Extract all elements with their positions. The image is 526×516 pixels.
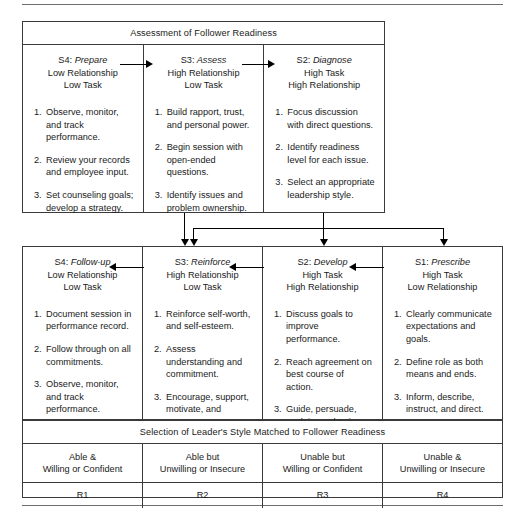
readiness-descriptor-r1: Able & Willing or Confident xyxy=(23,444,142,482)
arrow-s3-to-s4-line xyxy=(116,267,144,268)
list-item: 2.Reach agreement on best course of acti… xyxy=(274,356,373,394)
selection-s4-code: S4: xyxy=(54,257,68,267)
item-number: 2. xyxy=(275,141,283,154)
assessment-s3-items: 1.Build rapport, trust, and personal pow… xyxy=(144,92,264,214)
assessment-s4-items: 1.Observe, monitor, and track performanc… xyxy=(23,92,143,214)
list-item: 2.Identify readiness level for each issu… xyxy=(275,141,375,166)
assessment-s4-line3: Low Task xyxy=(27,79,139,92)
connector-s2-down-line xyxy=(323,213,324,241)
readiness-level-row: R1 R2 R3 R4 xyxy=(23,483,502,508)
list-item: 1.Focus discussion with direct questions… xyxy=(275,106,375,131)
arrow-s3-to-s2-head xyxy=(268,60,275,68)
assessment-s4-name: Prepare xyxy=(75,55,108,65)
item-text: Define role as both means and ends. xyxy=(406,357,483,380)
item-number: 2. xyxy=(274,356,282,369)
item-number: 1. xyxy=(34,308,42,321)
item-text: Reach agreement on best course of action… xyxy=(286,357,372,392)
connector-bus-right-head xyxy=(440,239,448,246)
selection-s1-items: 1.Clearly communicate expectations and g… xyxy=(383,294,502,416)
item-number: 3. xyxy=(155,189,163,202)
item-text: Begin session with open-ended questions. xyxy=(167,142,243,177)
readiness-descriptor-r2: Able but Unwilling or Insecure xyxy=(142,444,262,482)
item-text: Discuss goals to improve performance. xyxy=(286,309,353,344)
item-text: Focus discussion with direct questions. xyxy=(287,107,373,130)
selection-s1-line2: High Task xyxy=(387,269,498,282)
readiness-box: Selection of Leader's Style Matched to F… xyxy=(22,420,503,498)
connector-s3-down-head xyxy=(181,239,189,246)
readiness-level-r2: R2 xyxy=(142,483,262,508)
readiness-level-r1: R1 xyxy=(23,483,142,508)
assessment-s3-line3: Low Task xyxy=(148,79,260,92)
readiness-level-r4: R4 xyxy=(382,483,502,508)
list-item: 3.Observe, monitor, and track performanc… xyxy=(34,378,133,416)
arrow-s3-to-s4-head xyxy=(109,263,116,271)
list-item: 3.Select an appropriate leadership style… xyxy=(275,176,375,201)
selection-s1-code: S1: xyxy=(415,257,429,267)
item-text: Identify issues and problem ownership. xyxy=(167,190,247,213)
readiness-descriptor-r2-line2: Unwilling or Insecure xyxy=(160,463,245,476)
selection-columns: S4: Follow-up Low Relationship Low Task … xyxy=(23,247,502,419)
selection-s2-line2: High Task xyxy=(267,269,378,282)
list-item: 2.Assess understanding and commitment. xyxy=(154,343,253,381)
selection-s3-line2: High Relationship xyxy=(147,269,258,282)
item-number: 2. xyxy=(34,154,42,167)
list-item: 3.Identify issues and problem ownership. xyxy=(155,189,255,214)
item-number: 3. xyxy=(274,403,282,416)
item-text: Identify readiness level for each issue. xyxy=(287,142,368,165)
assessment-s2-heading: S2: Diagnose High Task High Relationship xyxy=(264,45,384,92)
arrow-s4-to-s3-line xyxy=(120,64,146,65)
list-item: 1.Document session in performance record… xyxy=(34,308,133,333)
selection-s4-heading: S4: Follow-up Low Relationship Low Task xyxy=(23,247,142,294)
readiness-descriptor-row: Able & Willing or Confident Able but Unw… xyxy=(23,444,502,483)
selection-s2-items: 1.Discuss goals to improve performance. … xyxy=(263,294,382,429)
arrow-s2-to-s3-head xyxy=(229,263,236,271)
selection-s2-line3: High Relationship xyxy=(267,281,378,294)
item-text: Reinforce self-worth, and self-esteem. xyxy=(166,309,250,332)
item-number: 1. xyxy=(34,106,42,119)
selection-s4-name: Follow-up xyxy=(71,257,111,267)
readiness-descriptor-r1-line2: Willing or Confident xyxy=(43,463,123,476)
selection-s3-code: S3: xyxy=(175,257,189,267)
arrow-s1-to-s2-head xyxy=(349,263,356,271)
selection-s4-items: 1.Document session in performance record… xyxy=(23,294,142,416)
list-item: 1.Observe, monitor, and track performanc… xyxy=(34,106,134,144)
selection-s3-name: Reinforce xyxy=(191,257,230,267)
assessment-s2-code: S2: xyxy=(297,55,311,65)
assessment-column-s2: S2: Diagnose High Task High Relationship… xyxy=(263,45,384,213)
item-text: Assess understanding and commitment. xyxy=(166,344,242,379)
list-item: 2.Follow through on all commitments. xyxy=(34,343,133,368)
list-item: 2.Review your records and employee input… xyxy=(34,154,134,179)
item-text: Document session in performance record. xyxy=(46,309,131,332)
item-number: 1. xyxy=(275,106,283,119)
item-number: 3. xyxy=(34,189,42,202)
readiness-descriptor-r4: Unable & Unwilling or Insecure xyxy=(382,444,502,482)
connector-bus-horizontal xyxy=(193,228,444,229)
assessment-column-s3: S3: Assess High Relationship Low Task 1.… xyxy=(143,45,264,213)
top-rule xyxy=(22,4,503,5)
assessment-columns: S4: Prepare Low Relationship Low Task 1.… xyxy=(23,45,384,213)
selection-column-s4: S4: Follow-up Low Relationship Low Task … xyxy=(23,247,142,419)
item-number: 3. xyxy=(275,176,283,189)
arrow-s2-to-s3-line xyxy=(236,267,264,268)
selection-s3-items: 1.Reinforce self-worth, and self-esteem.… xyxy=(143,294,262,429)
selection-s3-heading: S3: Reinforce High Relationship Low Task xyxy=(143,247,262,294)
selection-s2-heading: S2: Develop High Task High Relationship xyxy=(263,247,382,294)
selection-s4-line3: Low Task xyxy=(27,281,138,294)
list-item: 3.Set counseling goals; develop a strate… xyxy=(34,189,134,214)
assessment-s4-heading: S4: Prepare Low Relationship Low Task xyxy=(23,45,143,92)
item-number: 2. xyxy=(155,141,163,154)
readiness-descriptor-r4-line1: Unable & xyxy=(400,451,485,464)
item-number: 2. xyxy=(34,343,42,356)
assessment-s3-name: Assess xyxy=(197,55,227,65)
selection-s2-code: S2: xyxy=(297,257,311,267)
assessment-s2-items: 1.Focus discussion with direct questions… xyxy=(264,92,384,202)
selection-box: S4: Follow-up Low Relationship Low Task … xyxy=(22,246,503,420)
assessment-s2-line3: High Relationship xyxy=(268,79,380,92)
connector-bus-left-head xyxy=(190,239,198,246)
item-number: 1. xyxy=(155,106,163,119)
item-number: 3. xyxy=(394,391,402,404)
list-item: 2.Begin session with open-ended question… xyxy=(155,141,255,179)
item-text: Clearly communicate expectations and goa… xyxy=(406,309,492,344)
assessment-s4-line2: Low Relationship xyxy=(27,67,139,80)
connector-s2-down-head xyxy=(320,239,328,246)
